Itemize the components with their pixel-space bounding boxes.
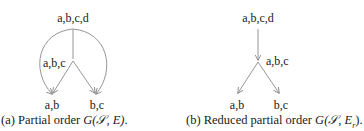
caption-b-text: (b) Reduced partial order: [186, 113, 315, 127]
caption-a: (a) Partial order G(𝒮, E).: [1, 113, 128, 127]
node-label-abc-b: a,b,c: [266, 55, 289, 67]
node-label-abc-a: a,b,c: [43, 57, 66, 69]
edge-abcd-bc: [73, 29, 107, 94]
edge-abc-bc: [73, 61, 95, 93]
caption-b: (b) Reduced partial order G(𝒮, Er).: [186, 113, 363, 131]
caption-a-end: .: [125, 113, 128, 127]
node-label-ab-a: a,b: [45, 99, 59, 111]
caption-b-math: G(𝒮, E: [315, 113, 352, 127]
caption-a-math: G(𝒮, E): [83, 113, 124, 127]
node-label-bc-a: b,c: [90, 99, 104, 111]
node-label-abcd-b: a,b,c,d: [242, 12, 274, 24]
edge-abc-ab: [238, 62, 258, 93]
node-label-bc-b: b,c: [274, 99, 288, 111]
caption-b-end: ).: [355, 113, 362, 127]
node-label-ab-b: a,b: [230, 99, 244, 111]
caption-a-text: (a) Partial order: [1, 113, 83, 127]
node-label-abcd-a: a,b,c,d: [57, 12, 89, 24]
